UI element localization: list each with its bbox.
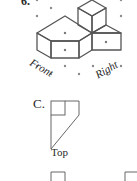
option-letter[interactable]: C. [33,96,45,112]
top-view-shape [51,101,79,149]
isometric-drawing [0,0,137,181]
view-label: Top [51,146,68,158]
next-options-partial [51,172,137,181]
left-block [37,16,92,58]
right-block [92,25,121,50]
question-number: 6. [21,0,30,9]
